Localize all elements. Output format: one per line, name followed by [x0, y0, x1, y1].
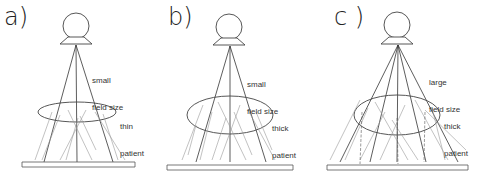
xray-tube-icon — [60, 13, 92, 44]
field-size-line1: small — [247, 80, 278, 89]
panel-label-a: a) — [4, 5, 28, 29]
field-size-label-a: small field size — [92, 58, 123, 130]
scatter-diagram-figure: a) b) c ) small field size thin patient … — [0, 0, 480, 180]
diagram-canvas — [0, 0, 480, 180]
xray-tube-icon — [213, 14, 245, 45]
field-size-line1: large — [429, 78, 460, 87]
field-size-line2: field size — [92, 103, 123, 112]
patient-line2: patient — [272, 151, 296, 160]
field-size-line1: small — [92, 76, 123, 85]
patient-line1: thick — [444, 122, 468, 131]
detector-plate — [22, 162, 135, 167]
patient-line2: patient — [120, 149, 144, 158]
xray-tube-icon — [381, 12, 413, 44]
patient-label-a: thin patient — [120, 104, 144, 176]
patient-label-c: thick patient — [444, 104, 468, 176]
panel-label-b: b) — [168, 5, 193, 29]
panel-label-c: c ) — [334, 5, 364, 29]
patient-line1: thin — [120, 122, 144, 131]
patient-line1: thick — [272, 124, 296, 133]
patient-label-b: thick patient — [272, 106, 296, 178]
patient-line2: patient — [444, 149, 468, 158]
